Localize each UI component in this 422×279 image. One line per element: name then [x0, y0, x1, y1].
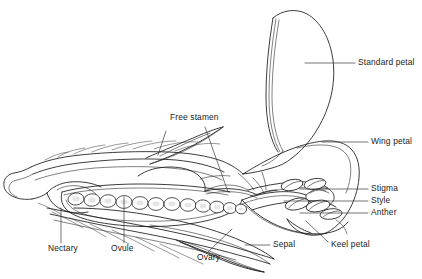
receptacle-shape	[4, 167, 47, 199]
flower-diagram: Standard petal Wing petal Stigma Style A…	[0, 0, 422, 279]
ovule-shape	[223, 202, 238, 215]
label-stigma: Stigma	[371, 184, 398, 192]
sepal-hairs-upper	[45, 127, 223, 164]
ovule-shape	[148, 197, 164, 210]
ovule-shape	[180, 198, 196, 211]
label-ovule: Ovule	[111, 244, 134, 252]
label-ovary: Ovary	[197, 253, 220, 261]
ovule-shape	[164, 198, 180, 211]
label-style: Style	[371, 196, 390, 204]
ovule-shape	[83, 193, 100, 207]
ovule-row	[67, 192, 247, 215]
label-nectary: Nectary	[48, 244, 78, 252]
leader-keel-petal	[306, 221, 328, 242]
ovule-shape	[67, 192, 84, 206]
label-standard-petal: Standard petal	[358, 58, 415, 66]
anther-shape	[280, 178, 304, 193]
label-wing-petal: Wing petal	[371, 137, 412, 145]
standard-petal-shape	[243, 11, 334, 174]
label-keel-petal: Keel petal	[331, 240, 370, 248]
ovule-shape	[132, 196, 148, 209]
lower-sepal-lines	[47, 208, 274, 264]
flower-longitudinal-section-drawing	[0, 0, 422, 279]
label-anther: Anther	[371, 208, 397, 216]
ovule-shape	[235, 203, 248, 214]
leader-free-stamen	[205, 127, 228, 192]
ovule-shape	[195, 199, 211, 212]
label-sepal: Sepal	[273, 240, 295, 248]
ovule-shape	[100, 194, 117, 208]
label-free-stamen: Free stamen	[170, 113, 219, 121]
